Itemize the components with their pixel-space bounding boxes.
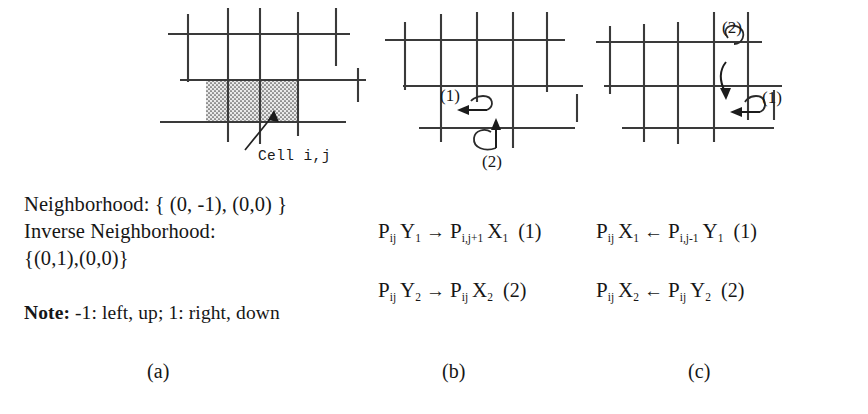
arrow-1-head bbox=[730, 107, 742, 117]
arrow-2-head bbox=[491, 118, 501, 130]
formula-b1-right-var-sub: 1 bbox=[502, 232, 508, 244]
formula-c1-right-sub: i,j-1 bbox=[680, 232, 699, 244]
note-text: Note: -1: left, up; 1: right, down bbox=[24, 302, 280, 324]
formula-b1-right-sub: i,j+1 bbox=[462, 232, 484, 244]
formula-c2-right-var: Y bbox=[690, 278, 705, 302]
panel-c-formula-1: PijX1←Pi,j-1Y1(1) bbox=[596, 219, 757, 244]
panel-b-arrow-tag-1: (1) bbox=[440, 86, 460, 106]
cell-ij-label: Cell i,j bbox=[258, 148, 331, 164]
panel-b-grid-svg bbox=[375, 2, 590, 177]
subfigure-label-c: (c) bbox=[688, 360, 711, 383]
formula-c2-right-p: P bbox=[668, 278, 680, 302]
arrow-2-loop bbox=[474, 130, 496, 150]
panel-c-arrow-tag-2: (2) bbox=[722, 18, 742, 38]
formula-b1-tag: (1) bbox=[518, 220, 541, 242]
inverse-neighborhood-label: Inverse Neighborhood: bbox=[24, 220, 216, 243]
subfigure-label-a: (a) bbox=[147, 360, 170, 383]
formula-b2-left-sub: ij bbox=[390, 291, 396, 303]
formula-b2-arrow-icon: → bbox=[421, 280, 450, 301]
neighborhood-text: Neighborhood: { (0, -1), (0,0) } bbox=[24, 193, 287, 216]
formula-c1-right-var: Y bbox=[703, 219, 718, 243]
formula-b1-left-p: P bbox=[378, 219, 390, 243]
formula-b2-left-var: Y bbox=[400, 278, 415, 302]
formula-c1-right-p: P bbox=[668, 219, 680, 243]
inverse-neighborhood-set: {(0,1),(0,0)} bbox=[24, 247, 129, 270]
formula-c1-left-p: P bbox=[596, 219, 608, 243]
formula-c2-tag: (2) bbox=[721, 279, 744, 301]
formula-c1-left-var: X bbox=[618, 219, 633, 243]
formula-b1-left-sub: ij bbox=[390, 232, 396, 244]
formula-b2-right-var-sub: 2 bbox=[487, 291, 493, 303]
panel-a-grid-svg bbox=[150, 2, 375, 152]
formula-b1-right-var: X bbox=[487, 219, 502, 243]
arrow-2-head bbox=[720, 88, 731, 100]
panel-a-diagram bbox=[150, 2, 375, 152]
formula-c2-arrow-icon: ← bbox=[639, 280, 668, 301]
formula-c1-tag: (1) bbox=[733, 220, 756, 242]
panel-b-formula-2: PijY2→PijX2(2) bbox=[378, 278, 526, 303]
formula-b2-tag: (2) bbox=[503, 279, 526, 301]
arrow-1-head bbox=[457, 105, 469, 115]
formula-c2-left-sub: ij bbox=[608, 291, 614, 303]
panel-b-diagram bbox=[375, 2, 590, 177]
formula-b2-left-p: P bbox=[378, 278, 390, 302]
note-bold-prefix: Note: bbox=[24, 302, 70, 323]
panel-b-formula-1: PijY1→Pi,j+1X1(1) bbox=[378, 219, 541, 244]
formula-c1-left-sub: ij bbox=[608, 232, 614, 244]
formula-c1-right-var-sub: 1 bbox=[718, 232, 724, 244]
formula-c2-right-sub: ij bbox=[680, 291, 686, 303]
formula-c2-left-p: P bbox=[596, 278, 608, 302]
subfigure-label-b: (b) bbox=[442, 360, 466, 383]
arrow-2-path bbox=[721, 62, 726, 92]
formula-b1-right-p: P bbox=[450, 219, 462, 243]
panel-b-arrow-tag-2: (2) bbox=[482, 152, 502, 172]
arrow-1-hook bbox=[471, 96, 492, 110]
formula-c1-arrow-icon: ← bbox=[639, 221, 668, 242]
formula-c2-right-var-sub: 2 bbox=[705, 291, 711, 303]
panel-c-arrow-tag-1: (1) bbox=[762, 88, 782, 108]
note-body: -1: left, up; 1: right, down bbox=[70, 302, 280, 323]
formula-b2-right-sub: ij bbox=[462, 291, 468, 303]
formula-b1-arrow-icon: → bbox=[421, 221, 450, 242]
formula-b2-right-p: P bbox=[450, 278, 462, 302]
panel-c-formula-2: PijX2←PijY2(2) bbox=[596, 278, 744, 303]
formula-b1-left-var: Y bbox=[400, 219, 415, 243]
formula-c2-left-var: X bbox=[618, 278, 633, 302]
formula-b2-right-var: X bbox=[472, 278, 487, 302]
shaded-cell-region bbox=[206, 80, 298, 122]
